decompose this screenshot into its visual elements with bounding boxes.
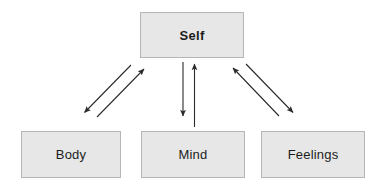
connector-self-to-body — [85, 65, 132, 113]
connector-feelings-to-self — [233, 68, 279, 116]
node-mind-label: Mind — [179, 148, 208, 161]
node-self-label: Self — [179, 29, 204, 42]
node-feelings[interactable]: Feelings — [261, 131, 365, 178]
node-mind[interactable]: Mind — [141, 131, 245, 178]
node-self[interactable]: Self — [140, 12, 244, 58]
node-body[interactable]: Body — [21, 131, 121, 178]
connector-body-to-self — [97, 69, 144, 117]
node-feelings-label: Feelings — [288, 148, 339, 161]
diagram-canvas: Self Body Mind Feelings — [0, 0, 378, 188]
node-body-label: Body — [56, 148, 86, 161]
connector-self-to-feelings — [246, 64, 293, 113]
